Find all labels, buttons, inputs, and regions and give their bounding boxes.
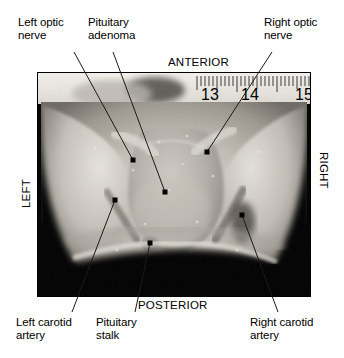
label-pituitary-adenoma: Pituitary adenoma xyxy=(88,16,135,41)
orientation-anterior: ANTERIOR xyxy=(168,56,229,68)
orientation-left: LEFT xyxy=(20,179,32,208)
specimen-photograph: 13 14 15 xyxy=(37,72,311,297)
label-pituitary-stalk: Pituitary stalk xyxy=(96,316,137,341)
orientation-right: RIGHT xyxy=(318,152,330,189)
specimen-photo-graphic: 13 14 15 xyxy=(37,72,311,297)
label-left-optic-nerve: Left optic nerve xyxy=(18,16,64,41)
label-left-carotid-artery: Left carotid artery xyxy=(16,316,72,341)
ruler-tick-14: 14 xyxy=(241,86,259,103)
label-right-carotid-artery: Right carotid artery xyxy=(250,316,313,341)
ruler-tick-13: 13 xyxy=(201,86,219,103)
anatomic-figure: 13 14 15 xyxy=(0,0,344,358)
label-right-optic-nerve: Right optic nerve xyxy=(264,16,317,41)
ruler-tick-15: 15 xyxy=(295,86,311,103)
orientation-posterior: POSTERIOR xyxy=(138,299,208,311)
